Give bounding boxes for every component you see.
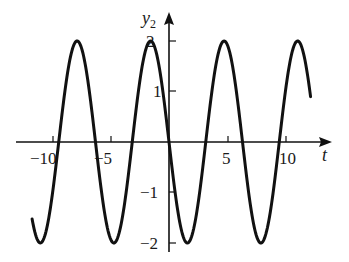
y-tick-label: 1 — [153, 82, 162, 101]
x-tick-label: 10 — [279, 149, 296, 168]
y-tick-label: −2 — [140, 234, 158, 253]
y-axis-title: y2 — [140, 8, 156, 31]
chart-container: −10 −5 5 10 2 1 −1 −2 t y2 — [0, 0, 349, 262]
sine-plot: −10 −5 5 10 2 1 −1 −2 t y2 — [0, 0, 349, 262]
x-tick-label: 5 — [222, 149, 231, 168]
y-tick-label: −1 — [140, 183, 158, 202]
x-tick-label: −10 — [30, 149, 57, 168]
x-axis-title: t — [322, 145, 328, 165]
